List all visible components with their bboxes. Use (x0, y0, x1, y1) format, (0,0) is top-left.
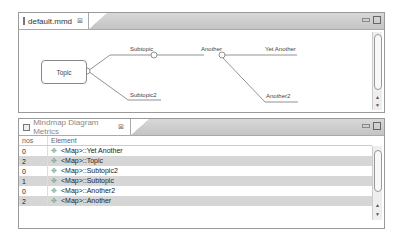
subtopic-node-label[interactable]: Subtopic (130, 46, 153, 52)
element-cell: ✥<Map>::Subtopic (48, 176, 373, 186)
maximize-icon[interactable] (373, 122, 381, 130)
element-cell: ✥<Map>::Yet Another (48, 146, 373, 157)
nos-cell: 1 (19, 176, 48, 186)
close-icon[interactable]: ⊠ (77, 17, 83, 25)
tab-label: default.mmd (28, 17, 72, 26)
table-row[interactable]: 0 ✥<Map>::Another2 (19, 186, 372, 196)
yet-another-node-label[interactable]: Yet Another (265, 46, 296, 52)
close-icon[interactable]: ⊠ (118, 123, 124, 131)
element-label: <Map>::Subtopic2 (61, 167, 118, 174)
metrics-tabbar: Mindmap Diagram Metrics ⊠ (19, 119, 384, 136)
tab-edge (89, 13, 107, 29)
element-icon: ✥ (51, 177, 57, 184)
topic-node[interactable]: Topic (41, 60, 87, 84)
editor-vertical-scrollbar[interactable]: ▲ ▼ (372, 32, 382, 110)
element-label: <Map>::Topic (61, 157, 103, 164)
scroll-down-icon[interactable]: ▼ (373, 211, 382, 217)
element-icon: ✥ (51, 197, 57, 204)
minimize-icon[interactable] (362, 124, 370, 128)
maximize-icon[interactable] (373, 16, 381, 24)
element-cell: ✥<Map>::Subtopic2 (48, 166, 373, 176)
table-row[interactable]: 2 ✥<Map>::Another (19, 196, 372, 206)
element-icon: ✥ (51, 157, 57, 164)
scroll-up-icon[interactable]: ▲ (373, 94, 382, 100)
tab-edge (131, 119, 149, 135)
element-label: <Map>::Another (61, 197, 111, 204)
element-cell: ✥<Map>::Another2 (48, 186, 373, 196)
file-icon (23, 17, 25, 25)
column-header-element[interactable]: Element (48, 136, 373, 146)
metrics-table-container: nos Element 0 ✥<Map>::Yet Another 2 ✥<Ma… (19, 136, 372, 206)
metrics-view: Mindmap Diagram Metrics ⊠ nos Element 0 … (18, 118, 385, 229)
subtopic2-node-label[interactable]: Subtopic2 (130, 92, 157, 98)
nos-cell: 2 (19, 156, 48, 166)
editor-pane: default.mmd ⊠ (18, 12, 385, 113)
element-label: <Map>::Yet Another (61, 147, 123, 154)
scroll-down-icon[interactable]: ▼ (373, 102, 382, 108)
nos-cell: 0 (19, 186, 48, 196)
metrics-table: nos Element 0 ✥<Map>::Yet Another 2 ✥<Ma… (19, 136, 372, 206)
scroll-thumb[interactable] (374, 34, 382, 90)
element-icon: ✥ (51, 187, 57, 194)
table-header-row: nos Element (19, 136, 372, 146)
editor-tabbar: default.mmd ⊠ (19, 13, 384, 30)
element-cell: ✥<Map>::Topic (48, 156, 373, 166)
nos-cell: 2 (19, 196, 48, 206)
window-controls (362, 16, 381, 24)
element-icon: ✥ (51, 167, 57, 174)
diagram-canvas[interactable]: Topic Subtopic Subtopic2 Another Yet Ano… (19, 30, 370, 112)
element-cell: ✥<Map>::Another (48, 196, 373, 206)
tab-label: Mindmap Diagram Metrics (33, 118, 113, 136)
table-row[interactable]: 0 ✥<Map>::Yet Another (19, 146, 372, 157)
minimize-icon[interactable] (362, 18, 370, 22)
table-row[interactable]: 1 ✥<Map>::Subtopic (19, 176, 372, 186)
tab-default-mmd[interactable]: default.mmd ⊠ (19, 13, 89, 29)
table-row[interactable]: 0 ✥<Map>::Subtopic2 (19, 166, 372, 176)
element-icon: ✥ (51, 147, 57, 154)
another-node-label[interactable]: Another (201, 46, 222, 52)
scroll-up-icon[interactable]: ▲ (373, 202, 382, 208)
table-row[interactable]: 2 ✥<Map>::Topic (19, 156, 372, 166)
scroll-thumb[interactable] (374, 150, 382, 192)
column-header-nos[interactable]: nos (19, 136, 48, 146)
view-icon (23, 124, 30, 131)
metrics-vertical-scrollbar[interactable]: ▲ ▼ (372, 146, 382, 220)
element-label: <Map>::Another2 (61, 187, 115, 194)
tab-mindmap-diagram-metrics[interactable]: Mindmap Diagram Metrics ⊠ (19, 119, 131, 135)
another2-node-label[interactable]: Another2 (266, 93, 290, 99)
nos-cell: 0 (19, 166, 48, 176)
window-controls (362, 122, 381, 130)
element-label: <Map>::Subtopic (61, 177, 114, 184)
nos-cell: 0 (19, 146, 48, 157)
topic-label: Topic (56, 69, 71, 76)
